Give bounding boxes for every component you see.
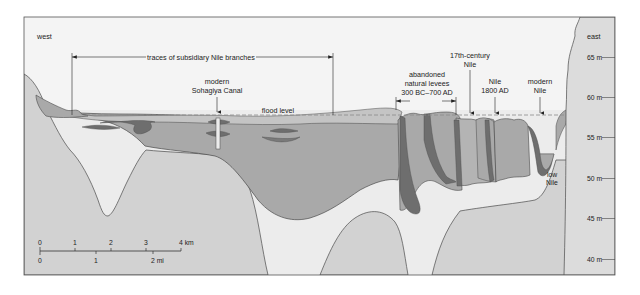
sohagiya-canal-cut (216, 118, 220, 149)
elevation-tick-label: 40 m (587, 256, 602, 263)
levees-label-line3: 300 BC–700 AD (401, 88, 453, 97)
elevation-tick-label: 50 m (587, 175, 602, 182)
scale-mi-2: 2 mi (151, 257, 164, 264)
elevation-tick-label: 55 m (587, 134, 602, 141)
nile17-label-line1: 17th-century (450, 51, 490, 60)
low-nile-label-line1: low (547, 171, 557, 178)
canal-label-line1: modern (205, 77, 229, 86)
scale-km-1: 1 (73, 239, 77, 246)
scale-mi-1: 1 (94, 257, 98, 264)
levee-block-4 (494, 119, 530, 182)
scale-km-0: 0 (38, 239, 42, 246)
west-label: west (36, 32, 52, 41)
nile17-label-line2: Nile (464, 60, 476, 69)
scale-km-4: 4 km (179, 239, 194, 246)
low-nile-label-line2: Nile (546, 179, 558, 186)
nile1800-label-line2: 1800 AD (481, 86, 509, 95)
nile-cross-section-diagram: west east traces of subsidiary Nile bran… (0, 0, 640, 295)
nile1800-label-line1: Nile (489, 77, 501, 86)
modern-nile-label-line2: Nile (534, 86, 546, 95)
scale-mi-0: 0 (38, 257, 42, 264)
scale-km-3: 3 (144, 239, 148, 246)
elevation-tick-label: 45 m (587, 215, 602, 222)
modern-nile-label-line1: modern (528, 77, 552, 86)
elevation-tick-label: 60 m (587, 94, 602, 101)
levees-label-line1: abandoned (409, 70, 445, 79)
scale-km-2: 2 (109, 239, 113, 246)
subsidiary-branches-label: traces of subsidiary Nile branches (147, 53, 255, 62)
flood-level-label: flood level (262, 106, 295, 115)
east-label: east (587, 32, 601, 41)
canal-label-line2: Sohagiya Canal (192, 86, 243, 95)
levees-label-line2: natural levees (405, 79, 450, 88)
elevation-tick-label: 65 m (587, 54, 602, 61)
